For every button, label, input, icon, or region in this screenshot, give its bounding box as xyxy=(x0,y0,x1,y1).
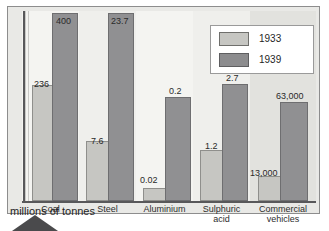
value-label-sulphuric-1933: 1.2 xyxy=(205,141,218,151)
legend-label-1933: 1933 xyxy=(259,32,281,46)
pointer-triangle-marker xyxy=(12,215,58,231)
value-label-vehicles-1933: 13,000 xyxy=(250,168,278,178)
value-label-aluminium-1933: 0.02 xyxy=(140,175,158,185)
value-label-steel-1939: 23.7 xyxy=(111,16,129,26)
bar-chart-figure: 236 400 7.6 23.7 0.02 0.2 1.2 2.7 13,000… xyxy=(0,0,329,231)
legend-label-1939: 1939 xyxy=(259,53,281,67)
legend-swatch-1939 xyxy=(219,53,249,67)
legend: 1933 1939 xyxy=(210,25,314,74)
bar-steel-1939 xyxy=(108,13,134,201)
value-label-steel-1933: 7.6 xyxy=(91,136,104,146)
category-label-aluminium: Aluminium xyxy=(136,204,193,214)
value-label-coal-1933: 236 xyxy=(34,79,49,89)
category-label-commercial-vehicles: Commercial vehicles xyxy=(250,204,316,224)
bar-coal-1939 xyxy=(52,13,78,201)
value-label-sulphuric-1939: 2.7 xyxy=(226,73,239,83)
value-label-vehicles-1939: 63,000 xyxy=(276,91,304,101)
chart-plate: 236 400 7.6 23.7 0.02 0.2 1.2 2.7 13,000… xyxy=(7,6,320,214)
category-label-sulphuric-acid: Sulphuric acid xyxy=(193,204,250,224)
legend-swatch-1933 xyxy=(219,32,249,46)
inner-rule-line xyxy=(28,11,29,201)
x-axis-line xyxy=(22,201,316,203)
y-axis-line xyxy=(23,11,25,203)
bar-sulphuric-1939 xyxy=(222,84,248,201)
value-label-coal-1939: 400 xyxy=(56,16,71,26)
inner-rule-line xyxy=(25,11,26,201)
value-label-aluminium-1939: 0.2 xyxy=(169,86,182,96)
bar-aluminium-1939 xyxy=(165,97,191,201)
bar-vehicles-1939 xyxy=(280,102,308,201)
